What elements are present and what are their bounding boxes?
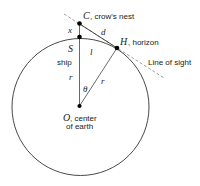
label-O-text2: of earth bbox=[66, 122, 93, 131]
label-ship: ship bbox=[57, 58, 72, 67]
point-H bbox=[115, 46, 120, 51]
label-l: l bbox=[90, 47, 93, 57]
label-C-text: , crow's nest bbox=[90, 12, 135, 21]
label-d: d bbox=[101, 27, 106, 37]
point-O bbox=[77, 104, 81, 108]
label-x: x bbox=[67, 25, 72, 35]
label-r-right: r bbox=[101, 76, 105, 86]
label-theta: θ bbox=[83, 84, 88, 94]
label-line-of-sight: Line of sight bbox=[148, 58, 192, 67]
earth-horizon-diagram: C , crow's nest H , horizon Line of sigh… bbox=[0, 0, 200, 186]
label-H-text: , horizon bbox=[128, 38, 159, 47]
label-H-letter: H bbox=[119, 36, 128, 47]
label-C-letter: C bbox=[83, 10, 90, 21]
point-S bbox=[77, 35, 82, 40]
label-r-left: r bbox=[69, 72, 73, 82]
segment-d bbox=[79, 24, 117, 49]
point-C bbox=[77, 21, 82, 26]
label-S-letter: S bbox=[68, 43, 73, 54]
segment-OH bbox=[80, 48, 118, 106]
